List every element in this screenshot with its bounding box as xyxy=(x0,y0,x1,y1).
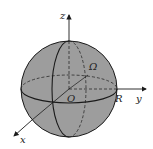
z-axis-label: z xyxy=(59,10,66,21)
radius-label: R xyxy=(114,93,123,104)
sphere-figure: z Ω O R y x xyxy=(0,0,153,149)
y-axis-label: y xyxy=(135,93,142,104)
x-axis-label: x xyxy=(20,134,26,145)
sphere-diagram: z Ω O R y x xyxy=(0,0,153,149)
region-label: Ω xyxy=(88,61,97,72)
origin-label: O xyxy=(67,93,75,104)
